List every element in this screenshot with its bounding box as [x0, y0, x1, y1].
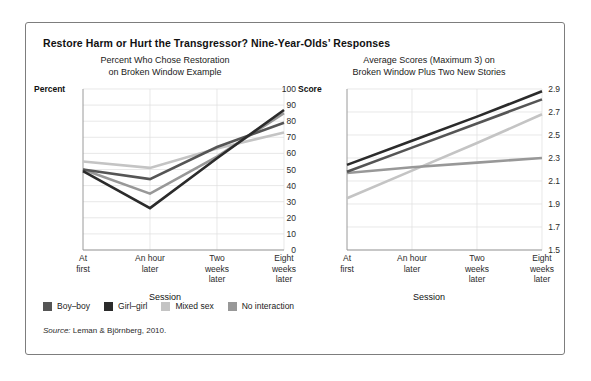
y-axis-tick-label: 80	[251, 116, 296, 126]
source-citation: Leman & Björnberg, 2010.	[71, 326, 167, 335]
y-axis-tick-label: 1.7	[515, 222, 560, 232]
legend-item: Girl–girl	[104, 301, 147, 311]
chart-subtitle-left-line1: Percent Who Chose Restoration	[34, 55, 296, 67]
legend-swatch-icon	[161, 302, 170, 311]
legend-label: Boy–boy	[57, 301, 90, 311]
legend-item: Mixed sex	[161, 301, 213, 311]
plot-area-left: 0102030405060708090100PercentAt firstAn …	[34, 83, 296, 308]
source-note: Source: Leman & Björnberg, 2010.	[43, 326, 166, 335]
y-axis-tick-label: 2.9	[515, 84, 560, 94]
y-axis-title: Score	[298, 84, 322, 94]
y-axis-tick-label: 2.7	[515, 107, 560, 117]
x-axis-title: Session	[298, 292, 560, 302]
legend-label: No interaction	[242, 301, 294, 311]
x-axis-tick-label: At first	[320, 253, 374, 274]
y-axis-tick-label: 10	[251, 229, 296, 239]
x-axis-tick-label: An hour later	[385, 253, 439, 274]
y-axis-tick-label: 1.9	[515, 199, 560, 209]
figure-title: Restore Harm or Hurt the Transgressor? N…	[43, 37, 390, 49]
x-axis-tick-label: An hour later	[123, 253, 177, 274]
y-axis-title: Percent	[34, 84, 65, 94]
chart-subtitle-right-line2: Broken Window Plus Two New Stories	[298, 67, 560, 79]
y-axis-tick-label: 60	[251, 148, 296, 158]
y-axis-tick-label: 50	[251, 165, 296, 175]
y-axis-tick-label: 2.3	[515, 153, 560, 163]
y-axis-tick-label: 90	[251, 100, 296, 110]
chart-subtitle-right-line1: Average Scores (Maximum 3) on	[298, 55, 560, 67]
x-axis-tick-label: At first	[56, 253, 110, 274]
chart-subtitle-left: Percent Who Chose Restoration on Broken …	[34, 55, 296, 78]
legend-label: Mixed sex	[175, 301, 213, 311]
y-axis-tick-label: 70	[251, 132, 296, 142]
x-axis-tick-label: Eight weeks later	[515, 253, 569, 285]
plot-area-right: 1.51.71.92.12.32.52.72.9ScoreAt firstAn …	[298, 83, 560, 308]
y-axis-tick-label: 40	[251, 181, 296, 191]
data-line-series	[347, 114, 542, 198]
legend-swatch-icon	[104, 302, 113, 311]
figure-frame: Restore Harm or Hurt the Transgressor? N…	[25, 22, 565, 355]
y-axis-tick-label: 100	[251, 84, 296, 94]
legend-item: Boy–boy	[43, 301, 90, 311]
legend-swatch-icon	[43, 302, 52, 311]
chart-subtitle-left-line2: on Broken Window Example	[34, 67, 296, 79]
chart-subtitle-right: Average Scores (Maximum 3) on Broken Win…	[298, 55, 560, 78]
source-label: Source:	[43, 326, 71, 335]
y-axis-tick-label: 2.5	[515, 130, 560, 140]
legend-swatch-icon	[228, 302, 237, 311]
x-axis-tick-label: Two weeks later	[450, 253, 504, 285]
legend-label: Girl–girl	[118, 301, 147, 311]
legend-item: No interaction	[228, 301, 294, 311]
y-axis-tick-label: 20	[251, 213, 296, 223]
x-axis-tick-label: Two weeks later	[190, 253, 244, 285]
y-axis-tick-label: 2.1	[515, 176, 560, 186]
y-axis-tick-label: 30	[251, 197, 296, 207]
legend: Boy–boyGirl–girlMixed sexNo interaction	[43, 301, 294, 311]
